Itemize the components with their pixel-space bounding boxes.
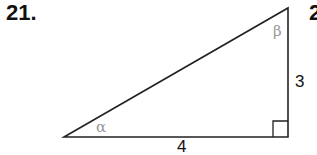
- right-angle-marker: [273, 121, 288, 137]
- side-4-label: 4: [177, 137, 186, 155]
- angle-alpha-label: α: [96, 118, 106, 136]
- side-3-label: 3: [295, 72, 304, 92]
- angle-beta-label: β: [273, 22, 282, 40]
- right-triangle: [0, 0, 317, 155]
- problem-21: 21. 2 α β 3 4: [0, 0, 317, 155]
